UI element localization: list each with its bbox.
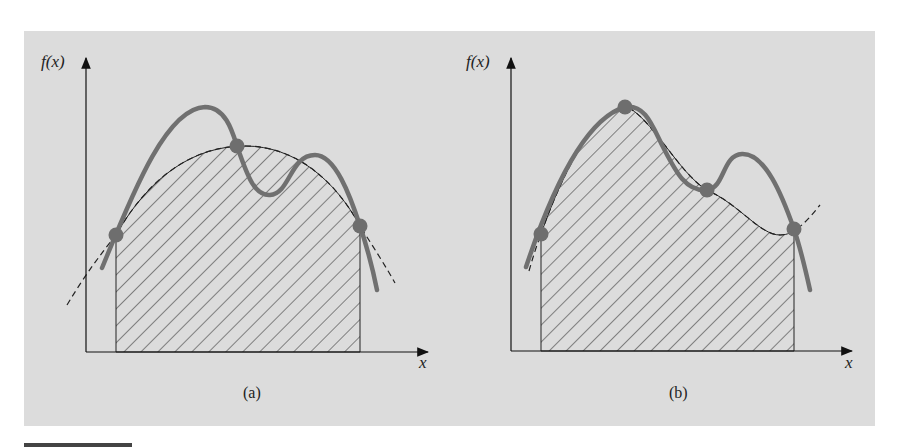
y-axis-label-a: f(x) [41, 52, 65, 72]
panel-a [67, 58, 428, 352]
hatched-area-b [541, 106, 794, 351]
figure-svg [0, 0, 899, 447]
x-axis-label-a: x [419, 353, 427, 373]
hatched-area-a [116, 146, 360, 352]
sample-point-b-3 [700, 183, 715, 198]
y-axis-label-b: f(x) [466, 52, 490, 72]
caption-a: (a) [243, 384, 261, 402]
caption-b: (b) [669, 384, 688, 402]
sample-point-a-2 [230, 139, 245, 154]
sample-point-a-3 [353, 219, 368, 234]
sample-point-b-4 [787, 222, 802, 237]
sample-point-b-2 [618, 100, 633, 115]
panel-b [511, 58, 852, 351]
x-axis-label-b: x [845, 353, 853, 373]
sample-point-a-1 [109, 228, 124, 243]
sample-point-b-1 [534, 227, 549, 242]
